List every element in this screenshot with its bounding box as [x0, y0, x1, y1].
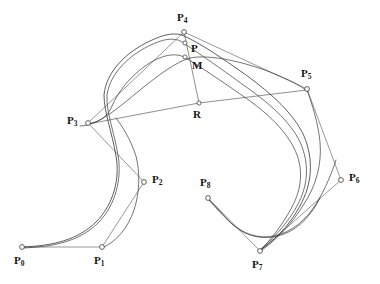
vertex-marker-m[interactable]	[183, 55, 187, 59]
point-label-p2: P2	[152, 174, 163, 185]
polygon-segment-p1-p2	[102, 182, 144, 247]
spline-curve-3	[88, 55, 301, 251]
point-label-r: R	[193, 109, 201, 120]
vertex-marker-p4[interactable]	[182, 30, 187, 35]
vertex-marker-p7[interactable]	[258, 249, 263, 254]
polygon-segment-p7-p8	[208, 198, 260, 251]
polygon-segment-p3-p4	[88, 32, 184, 123]
control-polygon-group	[22, 32, 341, 251]
vertex-marker-p1[interactable]	[100, 245, 105, 250]
diagram-canvas: P0 P1 P2 P3 P4 P5 P6 P7 P8 P M R	[0, 0, 380, 284]
point-label-p: P	[191, 43, 198, 54]
vertex-marker-p5[interactable]	[305, 87, 310, 92]
point-label-m: M	[192, 60, 202, 71]
vertex-marker-p0[interactable]	[20, 245, 25, 250]
spline-curve-2	[22, 39, 306, 250]
vertex-marker-p6[interactable]	[339, 178, 344, 183]
spline-curve-5	[262, 90, 320, 250]
point-label-p8: P8	[200, 177, 211, 188]
point-label-p3: P3	[67, 115, 78, 126]
vertex-marker-p8[interactable]	[206, 196, 211, 201]
point-label-p1: P1	[94, 255, 105, 266]
point-label-p7: P7	[252, 259, 263, 270]
point-label-p4: P4	[177, 12, 188, 23]
spline-curve-1	[22, 34, 310, 250]
spline-figure	[0, 0, 380, 284]
polygon-segment-p5-p6	[307, 89, 341, 180]
spline-curve-8	[209, 198, 320, 237]
vertex-marker-p2[interactable]	[142, 180, 147, 185]
point-label-p0: P0	[14, 255, 25, 266]
polygon-segment-p2-p3	[88, 123, 144, 182]
point-label-p5: P5	[301, 68, 312, 79]
spline-curve-6	[102, 118, 139, 248]
point-label-p6: P6	[349, 172, 360, 183]
spline-curve-7	[208, 160, 336, 237]
vertex-marker-r[interactable]	[197, 101, 201, 105]
vertex-marker-p[interactable]	[183, 41, 187, 45]
vertex-marker-p3[interactable]	[86, 121, 91, 126]
spline-curve-group	[22, 34, 336, 251]
vertex-marker-group	[20, 30, 344, 254]
